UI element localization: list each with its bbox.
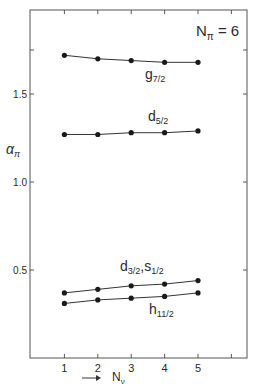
- x-axis-label: Nν: [82, 370, 125, 386]
- y-tick-label: 1.0: [13, 177, 27, 188]
- data-point: [195, 278, 200, 283]
- x-tick-label: 4: [162, 362, 168, 374]
- data-point: [195, 290, 200, 295]
- data-point: [162, 281, 167, 286]
- series-d3-2-s1-2: [62, 278, 201, 296]
- x-tick-label: 1: [61, 362, 67, 374]
- axis-ticks: [30, 10, 247, 358]
- data-point: [162, 130, 167, 135]
- tick-labels: 123450.51.01.5: [13, 89, 201, 374]
- data-point: [129, 296, 134, 301]
- plot-frame: [30, 10, 247, 358]
- data-point: [95, 297, 100, 302]
- series-h11-2: [62, 290, 201, 306]
- data-point: [62, 301, 67, 306]
- series-d5-2: [62, 128, 201, 137]
- data-point: [162, 60, 167, 65]
- data-point: [129, 130, 134, 135]
- series-label-d32-s12: d3/2,s1/2: [120, 258, 164, 276]
- data-point: [62, 290, 67, 295]
- data-point: [62, 53, 67, 58]
- data-point: [129, 283, 134, 288]
- data-point: [195, 128, 200, 133]
- y-tick-label: 1.5: [13, 89, 27, 100]
- x-tick-label: 2: [95, 362, 101, 374]
- data-point: [195, 60, 200, 65]
- chart: 123450.51.01.5 Nπ = 6 g7/2 d5/2 d3/2,s1/…: [0, 0, 257, 386]
- data-point: [62, 132, 67, 137]
- data-point: [95, 132, 100, 137]
- series-label-d52: d5/2: [148, 108, 168, 126]
- data-point: [162, 294, 167, 299]
- arrowhead-icon: [96, 375, 101, 381]
- x-tick-label: 5: [195, 362, 201, 374]
- annotation-n-pi: Nπ = 6: [196, 22, 239, 42]
- series-g7-2: [62, 53, 201, 65]
- series-label-h112: h11/2: [149, 301, 174, 319]
- x-tick-label: 3: [128, 362, 134, 374]
- y-axis-label: απ: [6, 141, 21, 159]
- y-tick-label: 0.5: [13, 265, 27, 276]
- svg-text:Nν: Nν: [112, 370, 125, 386]
- series-label-g72: g7/2: [145, 66, 165, 84]
- data-point: [95, 287, 100, 292]
- data-point: [95, 56, 100, 61]
- data-point: [129, 58, 134, 63]
